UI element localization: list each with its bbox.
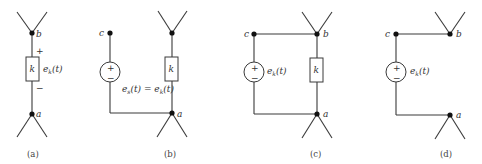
source-label: ek(t) [267, 66, 287, 77]
node-a [29, 111, 34, 116]
caption-d: (d) [440, 149, 452, 159]
node-a-label: a [36, 109, 41, 119]
source-minus-sign: − [393, 73, 401, 83]
branch-line [435, 115, 450, 139]
circuit-figure: k b a + − ek(t) (a) + − c es(t) = ek(t) … [0, 0, 482, 164]
node-c [107, 30, 112, 35]
node-c-label: c [385, 29, 390, 39]
node-a [447, 112, 452, 117]
node-c [393, 31, 398, 36]
node-b [169, 30, 174, 35]
source-plus-sign: + [251, 63, 259, 73]
equation-label: es(t) = ek(t) [122, 84, 174, 95]
node-a-label: a [323, 109, 328, 119]
source-minus-sign: − [107, 73, 115, 83]
node-c-label: c [99, 28, 104, 38]
panel-d: + − c ek(t) b a (d) [385, 12, 465, 159]
caption-b: (b) [164, 149, 176, 159]
source-label: ek(t) [410, 66, 430, 77]
minus-sign: − [36, 83, 44, 93]
plus-sign: + [36, 46, 44, 56]
node-b-label: b [456, 29, 462, 39]
node-a [314, 111, 319, 116]
node-c [251, 31, 256, 36]
branch-line [17, 114, 32, 137]
node-b-label: b [36, 29, 42, 39]
node-b [314, 31, 319, 36]
panel-a: k b a + − ek(t) (a) [17, 12, 63, 159]
node-b [29, 30, 34, 35]
element-k-label: k [314, 65, 319, 75]
branch-line [17, 12, 32, 33]
branch-line [157, 113, 172, 137]
node-b [447, 31, 452, 36]
branch-line [302, 12, 317, 34]
element-k-label: k [30, 64, 35, 74]
branch-line [158, 11, 172, 33]
branch-line [302, 114, 317, 138]
panel-c: + − c ek(t) k b a (c) [244, 12, 332, 159]
node-c-label: c [244, 29, 249, 39]
source-plus-sign: + [107, 63, 115, 73]
source-plus-sign: + [393, 63, 401, 73]
caption-a: (a) [27, 149, 39, 159]
node-a-label: a [177, 109, 182, 119]
voltage-label: ek(t) [43, 64, 63, 75]
node-b-label: b [323, 29, 329, 39]
panel-b: + − c es(t) = ek(t) k a (b) [99, 11, 187, 159]
branch-line [172, 11, 187, 33]
source-minus-sign: − [251, 73, 259, 83]
branch-line [435, 12, 450, 34]
node-a-label: a [456, 110, 461, 120]
node-a [169, 110, 174, 115]
caption-c: (c) [310, 149, 321, 159]
element-k-label: k [169, 64, 174, 74]
